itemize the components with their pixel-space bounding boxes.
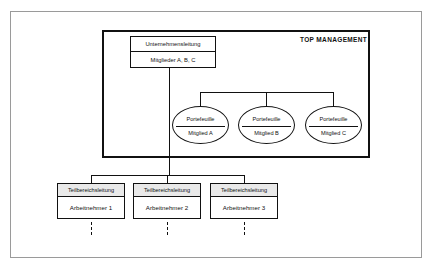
connector-portfolio-bus [200,92,334,93]
node-unternehmensleitung-members: Mitglieder A, B, C [131,52,215,67]
node-portefeuille-a-divider [176,126,225,127]
node-teilbereich-2[interactable]: Teilbereichsleitung Arbeitnehmer 2 [133,183,201,219]
node-portefeuille-a[interactable]: Portefeuille Mitglied A [172,106,229,144]
node-teilbereich-1[interactable]: Teilbereichsleitung Arbeitnehmer 1 [57,183,125,219]
node-unternehmensleitung-title: Unternehmensleitung [131,37,215,52]
connector-dashed-stub-3 [244,222,246,235]
node-portefeuille-a-title: Portefeuille [173,116,228,122]
connector-dashed-stub-2 [167,222,169,235]
node-portefeuille-b-divider [242,126,291,127]
node-teilbereich-3-worker: Arbeitnehmer 3 [211,197,277,218]
node-portefeuille-b[interactable]: Portefeuille Mitglied B [238,106,295,144]
connector-dashed-stub-1 [91,222,93,235]
node-portefeuille-a-member: Mitglied A [173,130,228,136]
node-portefeuille-b-member: Mitglied B [239,130,294,136]
node-teilbereich-1-worker: Arbeitnehmer 1 [58,197,124,218]
node-teilbereich-3[interactable]: Teilbereichsleitung Arbeitnehmer 3 [210,183,278,219]
connector-portfolio-drop-2 [266,92,267,107]
connector-portfolio-drop-1 [200,92,201,107]
node-teilbereich-3-title: Teilbereichsleitung [211,184,277,197]
diagram-canvas: TOP MANAGEMENT Unternehmensleitung Mitgl… [0,0,430,272]
node-teilbereich-2-title: Teilbereichsleitung [134,184,200,197]
connector-portfolio-drop-3 [333,92,334,107]
node-portefeuille-c-member: Mitglied C [306,130,361,136]
node-portefeuille-c[interactable]: Portefeuille Mitglied C [305,106,362,144]
node-teilbereich-2-worker: Arbeitnehmer 2 [134,197,200,218]
node-unternehmensleitung[interactable]: Unternehmensleitung Mitglieder A, B, C [130,36,216,68]
node-portefeuille-c-divider [309,126,358,127]
node-portefeuille-b-title: Portefeuille [239,116,294,122]
connector-main-vertical [169,68,170,175]
node-portefeuille-c-title: Portefeuille [306,116,361,122]
top-management-label: TOP MANAGEMENT [300,36,367,43]
node-teilbereich-1-title: Teilbereichsleitung [58,184,124,197]
